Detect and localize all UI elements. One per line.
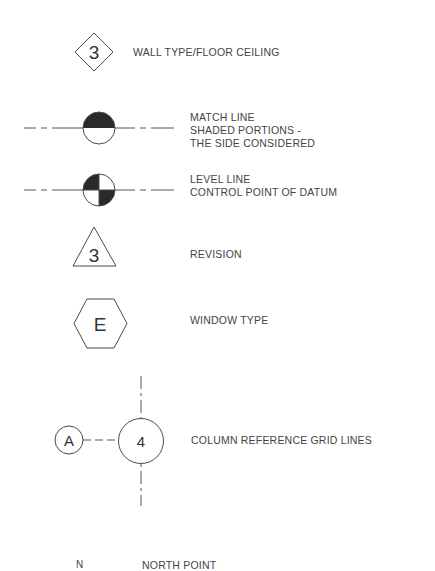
window-type-hexagon-symbol: E <box>74 299 127 348</box>
revision-number: 3 <box>89 245 100 266</box>
match-line-symbol <box>24 112 174 144</box>
window-type-letter: E <box>94 314 107 335</box>
match-line-label-2: SHADED PORTIONS - <box>190 124 301 136</box>
wall-type-label: WALL TYPE/FLOOR CEILING <box>133 46 280 58</box>
column-grid-label: COLUMN REFERENCE GRID LINES <box>191 434 372 446</box>
revision-triangle-symbol: 3 <box>73 227 116 266</box>
level-line-symbol <box>24 174 174 206</box>
wall-type-diamond-symbol: 3 <box>75 33 113 71</box>
north-point-label: NORTH POINT <box>142 559 216 571</box>
window-type-label: WINDOW TYPE <box>190 314 268 326</box>
revision-label: REVISION <box>190 248 242 260</box>
north-point-symbol: N <box>76 559 83 571</box>
row-grid-letter: A <box>64 432 74 449</box>
wall-type-number: 3 <box>89 42 100 63</box>
column-grid-symbol: A 4 <box>55 376 164 506</box>
level-line-label-2: CONTROL POINT OF DATUM <box>190 186 337 198</box>
legend-canvas: 3 3 E A 4 <box>0 0 435 571</box>
column-grid-number: 4 <box>137 433 145 450</box>
match-line-label-3: THE SIDE CONSIDERED <box>190 137 315 149</box>
level-line-label-1: LEVEL LINE <box>190 173 251 185</box>
match-line-label-1: MATCH LINE <box>190 111 255 123</box>
